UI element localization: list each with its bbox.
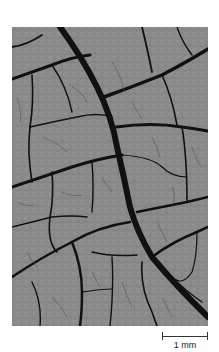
- leaf-venation-photo: [12, 27, 208, 326]
- scale-bar-line: [162, 336, 208, 337]
- scale-bar-label: 1 mm: [162, 340, 208, 350]
- scale-bar-left-tick: [162, 332, 163, 340]
- scale-bar-right-tick: [207, 332, 208, 340]
